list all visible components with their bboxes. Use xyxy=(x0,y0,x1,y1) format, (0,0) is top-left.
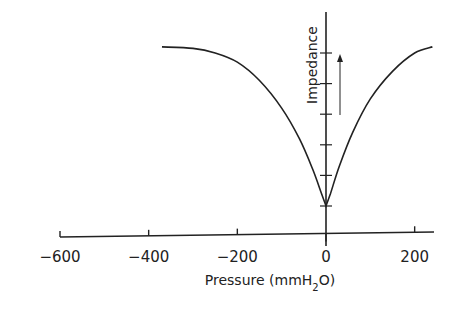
x-tick-label: 200 xyxy=(400,248,429,266)
impedance-pressure-chart: −600−400−2000200 Impedance Pressure (mmH… xyxy=(0,0,454,314)
x-tick-label: 0 xyxy=(321,248,331,266)
x-tick-label: −400 xyxy=(128,248,169,266)
impedance-curve xyxy=(162,47,432,206)
increase-arrow-icon xyxy=(337,54,343,115)
x-axis-tick-labels: −600−400−2000200 xyxy=(39,248,429,266)
y-axis-title: Impedance xyxy=(304,26,320,104)
x-tick-label: −600 xyxy=(39,248,80,266)
x-axis-ticks xyxy=(60,226,415,241)
x-tick-label: −200 xyxy=(217,248,258,266)
x-axis xyxy=(60,232,434,237)
x-axis-title: Pressure (mmH2O) xyxy=(205,272,335,293)
